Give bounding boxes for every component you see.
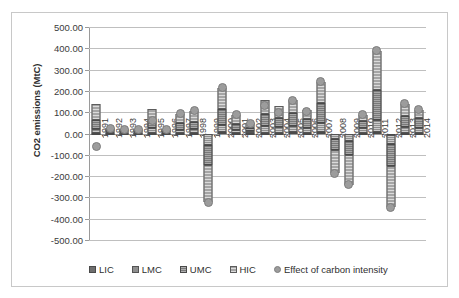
carbon-intensity-marker <box>120 125 129 134</box>
bar-column[interactable] <box>398 27 412 240</box>
y-axis-tick-label: 300.00 <box>54 64 83 75</box>
bar-segment-lmc <box>386 135 395 144</box>
carbon-intensity-marker <box>302 107 311 116</box>
bar-segment-umc <box>344 141 353 155</box>
bar-column[interactable] <box>328 27 342 240</box>
bar-segment-umc <box>330 139 339 150</box>
legend-swatch-circle-icon <box>274 266 281 273</box>
legend-swatch-square-icon <box>132 266 139 273</box>
bar-column[interactable] <box>314 27 328 240</box>
bar-segment-umc <box>260 114 269 126</box>
bar-column[interactable] <box>159 27 173 240</box>
y-axis-tick-label: 500.00 <box>54 22 83 33</box>
bar-column[interactable] <box>412 27 426 240</box>
bar-segment-lic <box>372 132 381 134</box>
bar-segment-lic <box>106 133 115 135</box>
bar-segment-umc <box>246 128 255 131</box>
bar-segment-hic <box>204 165 213 202</box>
legend-swatch-square-icon <box>180 266 187 273</box>
bar-column[interactable] <box>117 27 131 240</box>
legend-swatch-square-icon <box>89 266 96 273</box>
legend-label: LIC <box>99 264 114 275</box>
chart-frame: CO2 emissions (MtC) 500.00400.00300.0020… <box>11 12 448 287</box>
bar-column[interactable] <box>187 27 201 240</box>
legend-item-hic[interactable]: HIC <box>230 264 256 275</box>
bar-column[interactable] <box>103 27 117 240</box>
carbon-intensity-marker <box>344 180 353 189</box>
bar-column[interactable] <box>272 27 286 240</box>
bar-segment-umc <box>274 118 283 127</box>
carbon-intensity-marker <box>162 125 171 134</box>
carbon-intensity-marker <box>176 109 185 118</box>
bar-segment-lmc <box>260 126 269 132</box>
bar-column[interactable] <box>342 27 356 240</box>
carbon-intensity-marker <box>386 203 395 212</box>
bar-segment-hic <box>92 104 101 120</box>
carbon-intensity-marker <box>204 198 213 207</box>
bar-segment-umc <box>358 121 367 129</box>
bar-column[interactable] <box>258 27 272 240</box>
y-axis-tick-label: 0.00 <box>65 128 84 139</box>
y-axis-tick-label: 100.00 <box>54 107 83 118</box>
carbon-intensity-marker <box>134 125 143 134</box>
bar-segment-umc <box>176 123 185 129</box>
bar-segment-umc <box>372 90 381 120</box>
bar-segment-lic <box>400 133 409 135</box>
carbon-intensity-marker <box>288 96 297 105</box>
bar-segment-umc <box>414 118 423 127</box>
y-axis-tick-label: -200.00 <box>51 171 83 182</box>
bar-segment-umc <box>302 119 311 128</box>
bar-column[interactable] <box>229 27 243 240</box>
bar-segment-umc <box>190 122 199 130</box>
bar-column[interactable] <box>286 27 300 240</box>
legend-label: HIC <box>240 264 256 275</box>
bar-segment-lmc <box>148 128 157 133</box>
legend-label: UMC <box>190 264 212 275</box>
bar-column[interactable] <box>300 27 314 240</box>
y-axis-title: CO2 emissions (MtC) <box>31 41 42 181</box>
bar-column[interactable] <box>370 27 384 240</box>
legend-item-effect-of-carbon-intensity[interactable]: Effect of carbon intensity <box>274 264 388 275</box>
carbon-intensity-marker <box>148 116 157 125</box>
bar-segment-umc <box>92 120 101 129</box>
y-axis-tick-label: -400.00 <box>51 213 83 224</box>
carbon-intensity-marker <box>330 169 339 178</box>
bar-column[interactable] <box>384 27 398 240</box>
bar-segment-umc <box>288 113 297 125</box>
bar-segment-umc <box>400 116 409 127</box>
bar-segment-lmc <box>400 127 409 133</box>
bar-segment-umc <box>386 144 395 166</box>
bar-segment-umc <box>232 124 241 130</box>
bar-column[interactable] <box>89 27 103 240</box>
bar-segment-hic <box>372 51 381 91</box>
bar-segment-lic <box>316 132 325 134</box>
bar-column[interactable] <box>131 27 145 240</box>
legend-item-umc[interactable]: UMC <box>180 264 212 275</box>
legend-swatch-square-icon <box>230 266 237 273</box>
bar-segment-lmc <box>358 128 367 132</box>
y-axis-tick-label: 400.00 <box>54 43 83 54</box>
legend-item-lic[interactable]: LIC <box>89 264 114 275</box>
bar-segment-lmc <box>288 126 297 133</box>
bar-column[interactable] <box>243 27 257 240</box>
y-axis-tick-label: -500.00 <box>51 235 83 246</box>
carbon-intensity-marker <box>92 142 101 151</box>
y-axis-tick <box>85 240 89 241</box>
gridline <box>89 240 426 241</box>
bar-segment-lmc <box>246 131 255 133</box>
bar-segment-lmc <box>232 130 241 133</box>
y-axis-tick-label: -300.00 <box>51 192 83 203</box>
bar-column[interactable] <box>201 27 215 240</box>
bar-column[interactable] <box>173 27 187 240</box>
bar-column[interactable] <box>145 27 159 240</box>
bar-column[interactable] <box>356 27 370 240</box>
y-axis-tick-label: -100.00 <box>51 149 83 160</box>
bar-segment-lic <box>260 133 269 135</box>
carbon-intensity-marker <box>246 119 255 128</box>
bar-segment-lmc <box>92 129 101 133</box>
bar-segment-lmc <box>274 127 283 133</box>
legend-label: LMC <box>142 264 162 275</box>
bar-segment-lmc <box>176 130 185 133</box>
legend-item-lmc[interactable]: LMC <box>132 264 162 275</box>
bar-column[interactable] <box>215 27 229 240</box>
